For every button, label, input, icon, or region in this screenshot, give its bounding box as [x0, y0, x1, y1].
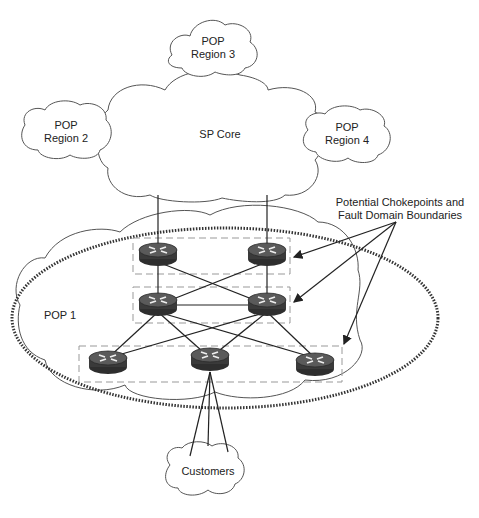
- pop-region-2-line2: Region 2: [41, 132, 91, 145]
- pop-1-label: POP 1: [40, 309, 80, 322]
- chokepoints-annotation: Potential Chokepoints and Fault Domain B…: [330, 196, 470, 222]
- annotation-line1: Potential Chokepoints and: [330, 196, 470, 209]
- pop-region-2-label: POP Region 2: [41, 119, 91, 145]
- pop-region-3-label: POP Region 3: [188, 35, 238, 61]
- router-icon-access-right: [296, 353, 334, 376]
- router-icon-core-right: [248, 243, 286, 266]
- network-diagram: [0, 0, 479, 518]
- sp-core-label: SP Core: [190, 128, 250, 141]
- router-icon-core-left: [139, 243, 177, 266]
- annotation-arrows: [294, 222, 396, 344]
- pop-region-4-line1: POP: [322, 121, 372, 134]
- pop-region-2-line1: POP: [41, 119, 91, 132]
- router-icon-dist-right: [248, 293, 286, 316]
- pop-region-4-label: POP Region 4: [322, 121, 372, 147]
- customers-label: Customers: [178, 465, 238, 478]
- pop-region-3-line1: POP: [188, 35, 238, 48]
- router-icon-dist-left: [139, 293, 177, 316]
- annotation-line2: Fault Domain Boundaries: [330, 209, 470, 222]
- router-icon-access-left: [89, 351, 127, 374]
- pop-region-3-line2: Region 3: [188, 48, 238, 61]
- router-icon-access-center: [191, 348, 229, 371]
- pop-region-4-line2: Region 4: [322, 134, 372, 147]
